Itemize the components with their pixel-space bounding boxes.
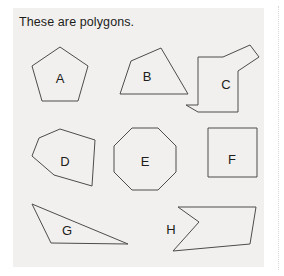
polygon-label: H — [166, 222, 175, 237]
polygon-outline — [32, 204, 128, 244]
polygon-f[interactable]: F — [208, 128, 257, 177]
polygon-b[interactable]: B — [120, 48, 188, 94]
shape-group: ABCDEFGH — [32, 45, 259, 251]
polygon-label: F — [228, 152, 236, 167]
polygon-label: E — [141, 154, 150, 169]
polygon-c[interactable]: C — [186, 45, 259, 112]
polygon-label: B — [143, 69, 152, 84]
polygon-d[interactable]: D — [32, 129, 95, 186]
worksheet-page: These are polygons. ABCDEFGH — [0, 0, 284, 276]
polygon-label: C — [221, 77, 230, 92]
polygon-a[interactable]: A — [32, 47, 88, 101]
page-separator-rule — [278, 6, 279, 270]
polygon-outline — [120, 48, 188, 94]
polygon-e[interactable]: E — [114, 128, 176, 190]
polygon-g[interactable]: G — [32, 204, 128, 244]
polygon-label: G — [62, 223, 72, 238]
polygon-label: D — [60, 154, 69, 169]
shape-canvas: ABCDEFGH — [13, 8, 264, 267]
polygon-h[interactable]: H — [166, 207, 256, 251]
polygon-outline — [173, 207, 256, 251]
polygon-label: A — [56, 71, 65, 86]
